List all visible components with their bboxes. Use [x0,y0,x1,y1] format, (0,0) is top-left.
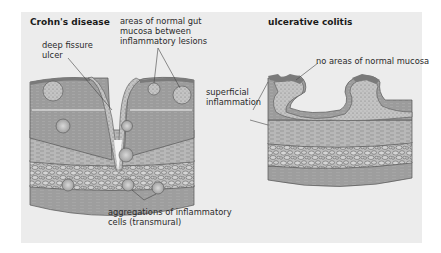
label-superficial-inflammation: superficial inflammation [206,87,261,107]
uc-wall [268,74,412,187]
label-normal-gut-mucosa: areas of normal gut mucosa between infla… [120,16,207,46]
crohns-wall [30,77,194,216]
label-deep-fissure-ulcer: deep fissure ulcer [42,40,93,60]
label-no-normal-mucosa: no areas of normal mucosa [316,56,429,66]
label-inflammatory-aggregations: aggregations of inflammatory cells (tran… [108,207,232,227]
crohns-title: Crohn's disease [30,17,110,27]
uc-title: ulcerative colitis [268,17,352,27]
